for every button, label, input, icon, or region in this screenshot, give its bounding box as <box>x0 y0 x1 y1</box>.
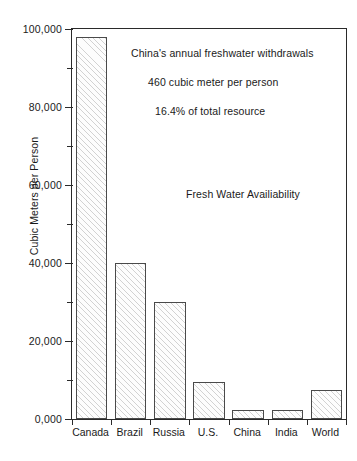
x-axis-label-world: World <box>312 426 339 438</box>
annotation-chart-caption: Fresh Water Availiability <box>186 188 300 200</box>
bar-china <box>232 410 263 419</box>
y-axis-tick-label: 20,000 <box>29 335 62 347</box>
x-axis-label-u-s: U.S. <box>198 426 218 438</box>
y-axis-tick-label: 60,000 <box>29 179 62 191</box>
y-axis-tick-label: 80,000 <box>29 101 62 113</box>
x-axis-tick <box>346 419 347 425</box>
y-axis-minor-tick <box>67 302 73 303</box>
bar-canada <box>76 37 107 419</box>
x-axis-tick <box>72 419 73 425</box>
annotation-per-person: 460 cubic meter per person <box>148 76 278 88</box>
bar-world <box>311 390 342 419</box>
y-axis-minor-tick <box>67 146 73 147</box>
bar-u-s <box>193 382 224 419</box>
x-axis-tick <box>189 419 190 425</box>
y-axis-tick <box>65 263 73 264</box>
bar-brazil <box>115 263 146 419</box>
x-axis-label-canada: Canada <box>72 426 109 438</box>
y-axis-tick <box>65 29 73 30</box>
y-axis-tick <box>65 107 73 108</box>
y-axis-minor-tick <box>67 380 73 381</box>
chart-figure: Cubic Meters per Person 0,00020,00040,00… <box>0 0 357 461</box>
y-axis-minor-tick <box>67 68 73 69</box>
x-axis-tick <box>268 419 269 425</box>
x-axis-tick <box>229 419 230 425</box>
annotation-withdrawals: China's annual freshwater withdrawals <box>131 47 314 59</box>
x-axis-label-india: India <box>275 426 298 438</box>
x-axis-tick <box>307 419 308 425</box>
bar-russia <box>154 302 185 419</box>
y-axis-tick <box>65 185 73 186</box>
y-axis-tick-label: 40,000 <box>29 257 62 269</box>
x-axis-label-russia: Russia <box>153 426 185 438</box>
y-axis-minor-tick <box>67 224 73 225</box>
y-axis-tick <box>65 341 73 342</box>
y-axis-tick-label: 0,000 <box>35 413 62 425</box>
y-axis-tick-label: 100,000 <box>23 23 62 35</box>
x-axis-tick <box>111 419 112 425</box>
x-axis-tick <box>150 419 151 425</box>
annotation-percent-total: 16.4% of total resource <box>155 105 265 117</box>
x-axis-labels: CanadaBrazilRussiaU.S.ChinaIndiaWorld <box>71 426 347 446</box>
x-axis-label-china: China <box>233 426 260 438</box>
x-axis-label-brazil: Brazil <box>117 426 143 438</box>
bar-india <box>272 410 303 419</box>
